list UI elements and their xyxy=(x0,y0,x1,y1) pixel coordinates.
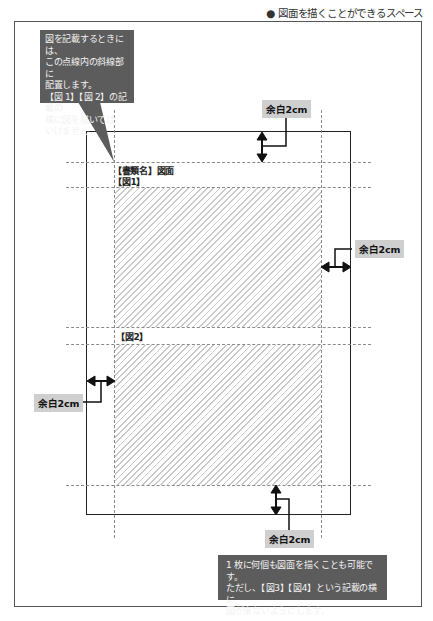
callout-top-line: いけません。 xyxy=(45,126,129,138)
bottom-margin-label: 余白2cm xyxy=(265,530,314,548)
callout-drawing-placement-note: 図を記載するときには、 この点線内の斜線部に 配置します。 【図 1】【図 2】… xyxy=(40,30,134,103)
callout-multiple-figures-note: 1 枚に何個も図面を描くことも可能です。 ただし、【図3】【図4】という記載の横… xyxy=(218,555,387,600)
callout-top-line: 図を記載するときには、 xyxy=(45,34,129,57)
bottom-margin-arrow-icon xyxy=(271,485,289,530)
callout-top-line: 【図 1】【図 2】の記載の xyxy=(45,92,129,115)
left-margin-label: 余白2cm xyxy=(34,394,83,412)
left-margin-arrow-icon xyxy=(83,376,115,402)
callout-bottom-line: 1 枚に何個も図面を描くことも可能です。 xyxy=(226,560,379,583)
top-margin-arrow-icon xyxy=(257,116,286,162)
callout-top-line: 横に図を描いては xyxy=(45,115,129,127)
right-margin-label: 余白2cm xyxy=(355,240,404,258)
callout-top-line: この点線内の斜線部に xyxy=(45,57,129,80)
top-margin-label: 余白2cm xyxy=(262,100,311,118)
callout-bottom-line: 図が来ないようにします。 xyxy=(226,606,379,618)
right-margin-arrow-icon xyxy=(321,249,352,272)
callout-top-line: 配置します。 xyxy=(45,80,129,92)
callout-bottom-line: ただし、【図3】【図4】という記載の横に xyxy=(226,583,379,606)
